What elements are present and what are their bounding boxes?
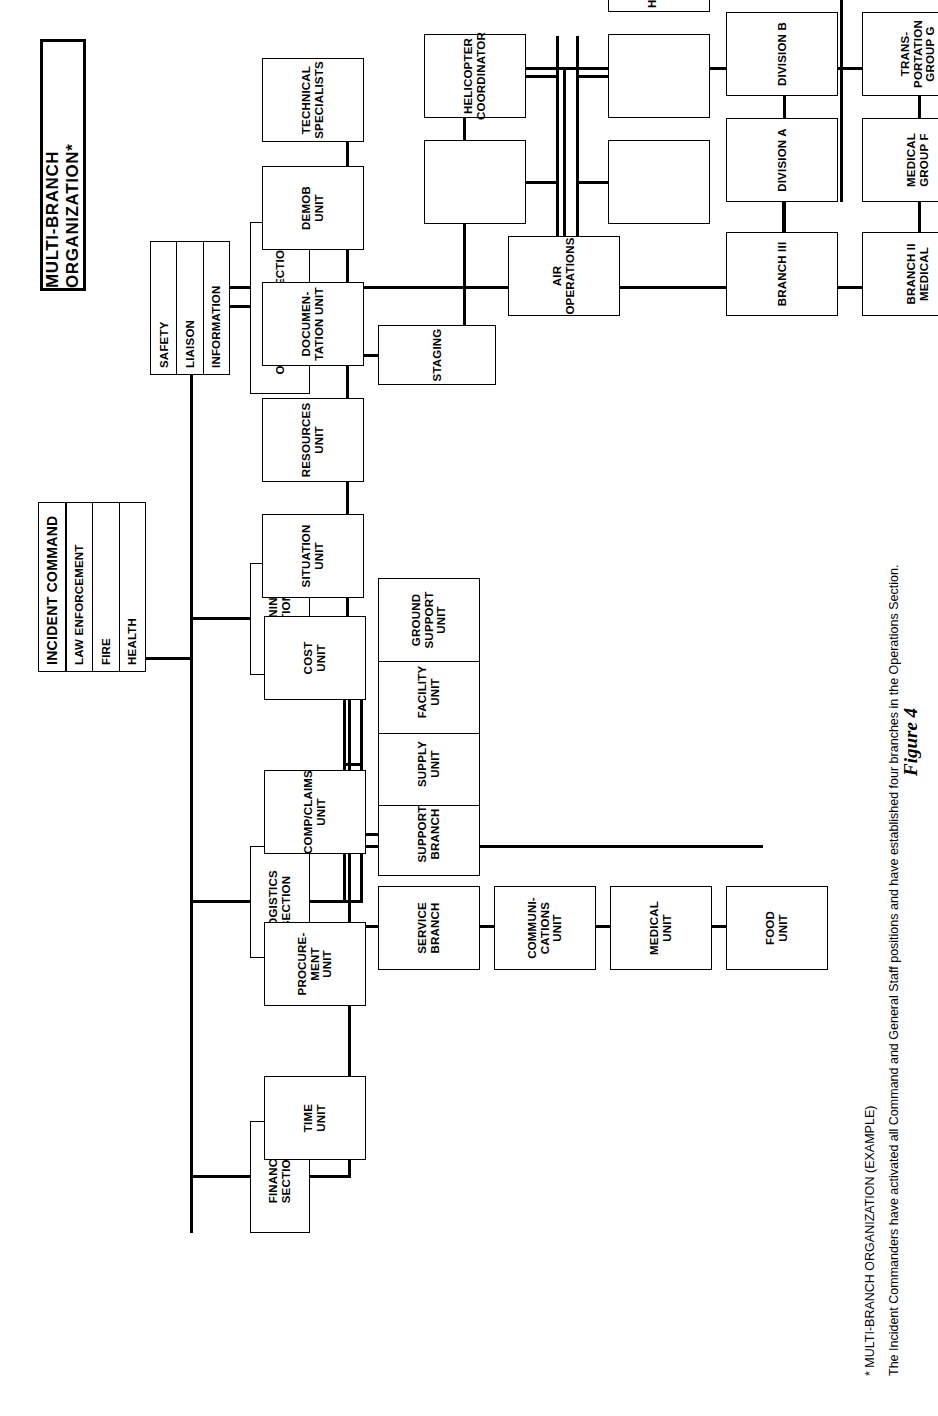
air-ops-lower-box-2 xyxy=(608,34,710,118)
connector-trunk-logistics xyxy=(190,900,250,903)
main-trunk-line xyxy=(190,658,193,1233)
footnote-line-1: * MULTI-BRANCH ORGANIZATION (EXAMPLE) xyxy=(862,1106,879,1376)
unit-ground-support-label: GROUND SUPPORT UNIT xyxy=(410,592,449,649)
org-chart-canvas: MULTI-BRANCH ORGANIZATION* INCIDENT COMM… xyxy=(0,0,938,1416)
air-ops-upper-box-2: HELICOPTER COORDINATOR xyxy=(424,34,526,118)
unit-medical: MEDICAL UNIT xyxy=(610,886,712,970)
air-ops-lower-rail xyxy=(576,36,579,224)
unit-service-branch: SERVICE BRANCH xyxy=(378,886,480,970)
unit-demob-label: DEMOB UNIT xyxy=(300,186,326,230)
incident-command-member-health: HEALTH xyxy=(120,503,146,671)
command-staff-item-liaison: LIAISON xyxy=(177,242,203,374)
footnote-line-2: The Incident Commanders have activated a… xyxy=(886,565,903,1376)
branch-ii-medical-group-f: MEDICAL GROUP F xyxy=(862,118,938,202)
branch-iii-box: BRANCH III xyxy=(726,232,838,316)
branch-ii-transportation-group-g-label: TRANS- PORTATION GROUP G xyxy=(899,20,938,88)
unit-facility: FACILITY UNIT xyxy=(378,650,480,734)
unit-supply: SUPPLY UNIT xyxy=(378,722,480,806)
air-ops-lower-box-3-label: HELICOPTER MANAGER xyxy=(646,0,672,8)
unit-ground-support: GROUND SUPPORT UNIT xyxy=(378,578,480,662)
connector-air-ops-to-spine xyxy=(563,68,566,236)
unit-air-operations-label: AIR OPERATIONS xyxy=(551,237,577,314)
unit-medical-label: MEDICAL UNIT xyxy=(648,901,674,955)
unit-cost-label: COST UNIT xyxy=(302,642,328,675)
unit-cost: COST UNIT xyxy=(264,616,366,700)
connector-air-ops-upper-tie xyxy=(556,224,559,236)
connector-air-ops-lower-tie xyxy=(576,224,579,236)
connector-logistics-service-stem xyxy=(310,900,362,903)
air-ops-lower-box-3: HELICOPTER MANAGER xyxy=(608,0,710,12)
branch-ii-label: BRANCH II MEDICAL xyxy=(905,243,931,304)
unit-staging: STAGING xyxy=(378,325,496,385)
unit-air-operations: AIR OPERATIONS xyxy=(508,236,620,316)
unit-communications: COMMUNI- CATIONS UNIT xyxy=(494,886,596,970)
unit-demob: DEMOB UNIT xyxy=(262,166,364,250)
page-title: MULTI-BRANCH ORGANIZATION* xyxy=(40,39,86,291)
connector-air-ops-lower-1 xyxy=(579,181,608,184)
branch-iii-rail xyxy=(840,0,843,202)
unit-time: TIME UNIT xyxy=(264,1076,366,1160)
branch-ii-box: BRANCH II MEDICAL xyxy=(862,232,938,316)
unit-staging-label: STAGING xyxy=(431,329,444,382)
unit-service-branch-label: SERVICE BRANCH xyxy=(416,902,442,954)
unit-situation: SITUATION UNIT xyxy=(262,514,364,598)
command-staff-box: SAFETY LIAISON INFORMATION xyxy=(150,241,230,375)
branch-iii-division-a-label: DIVISION A xyxy=(776,128,789,192)
incident-command-header: INCIDENT COMMAND xyxy=(39,503,67,671)
air-ops-upper-box-2-label: HELICOPTER COORDINATOR xyxy=(462,32,488,120)
incident-command-member-law-enforcement: LAW ENFORCEMENT xyxy=(67,503,94,671)
unit-resources: RESOURCES UNIT xyxy=(262,398,364,482)
unit-technical-specialists: TECHNICAL SPECIALISTS xyxy=(262,58,364,142)
unit-situation-label: SITUATION UNIT xyxy=(300,525,326,588)
branch-ii-medical-group-f-label: MEDICAL GROUP F xyxy=(905,133,931,187)
incident-command-member-fire: FIRE xyxy=(93,503,120,671)
connector-air-ops-upper-1 xyxy=(526,181,556,184)
unit-procurement-label: PROCURE- MENT UNIT xyxy=(296,933,335,996)
unit-supply-label: SUPPLY UNIT xyxy=(416,741,442,787)
unit-comp-claims-label: COMP/CLAIMS UNIT xyxy=(302,770,328,854)
unit-food: FOOD UNIT xyxy=(726,886,828,970)
command-staff-item-safety: SAFETY xyxy=(151,242,177,374)
connector-trunk-planning xyxy=(190,617,250,620)
page-title-label: MULTI-BRANCH ORGANIZATION* xyxy=(43,42,83,288)
air-ops-lower-box-1 xyxy=(608,140,710,224)
connector-command-to-trunk xyxy=(146,657,192,660)
unit-time-label: TIME UNIT xyxy=(302,1104,328,1132)
branch-ii-transportation-group-g: TRANS- PORTATION GROUP G xyxy=(862,12,938,96)
unit-communications-label: COMMUNI- CATIONS UNIT xyxy=(526,888,565,968)
unit-comp-claims: COMP/CLAIMS UNIT xyxy=(264,770,366,854)
air-ops-upper-box-1 xyxy=(424,140,526,224)
unit-procurement: PROCURE- MENT UNIT xyxy=(264,922,366,1006)
air-ops-upper-rail xyxy=(556,36,559,224)
unit-resources-label: RESOURCES UNIT xyxy=(300,403,326,478)
rotated-chart-wrapper: MULTI-BRANCH ORGANIZATION* INCIDENT COMM… xyxy=(0,0,938,1416)
unit-technical-specialists-label: TECHNICAL SPECIALISTS xyxy=(300,61,326,139)
command-staff-item-information: INFORMATION xyxy=(204,242,229,374)
branch-iii-division-b-label: DIVISION B xyxy=(776,22,789,86)
connector-trunk-finance xyxy=(190,1175,250,1178)
connector-air-ops-upper-2 xyxy=(526,75,556,78)
branch-iii-label: BRANCH III xyxy=(776,242,789,307)
branch-iii-division-a: DIVISION A xyxy=(726,118,838,202)
unit-support-branch-label: SUPPORT BRANCH xyxy=(416,806,442,863)
branch-iii-division-b: DIVISION B xyxy=(726,12,838,96)
connector-finance-rail-stem xyxy=(310,1175,350,1178)
incident-command-box: INCIDENT COMMAND LAW ENFORCEMENT FIRE HE… xyxy=(38,502,146,672)
unit-documentation-label: DOCUMEN- TATION UNIT xyxy=(300,287,326,360)
unit-documentation: DOCUMEN- TATION UNIT xyxy=(262,282,364,366)
connector-air-ops-lower-2 xyxy=(579,75,608,78)
unit-food-label: FOOD UNIT xyxy=(764,911,790,945)
unit-facility-label: FACILITY UNIT xyxy=(416,666,442,719)
figure-caption: Figure 4 xyxy=(900,708,922,776)
